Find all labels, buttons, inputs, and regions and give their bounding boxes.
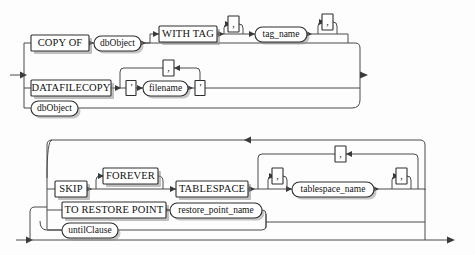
- until-clause-label: untilClause: [68, 225, 111, 235]
- to-restore-point-label: TO RESTORE POINT: [65, 204, 164, 215]
- comma-tag-after-label: ,: [326, 16, 329, 27]
- datafilecopy-label: DATAFILECOPY: [31, 82, 110, 93]
- arrow-filename-loop: [174, 65, 180, 71]
- tag-name-label: tag_name: [263, 29, 300, 39]
- panel-bottom-nodes: SKIP FOREVER TABLESPACE , , tablespace_n…: [55, 146, 407, 241]
- comma-ts-after-right-riser: [407, 176, 411, 189]
- railroad-diagram-svg: COPY OF dbObject WITH TAG , tag_name , D…: [0, 0, 475, 255]
- top-loopback-right-riser: [420, 140, 425, 190]
- copy-of-label: COPY OF: [38, 37, 83, 48]
- link-tagname-out: [307, 34, 348, 43]
- comma-ts-after-label: ,: [400, 170, 403, 181]
- dbobject-2-label: dbObject: [37, 103, 72, 113]
- link-dbobject2-rightbus: [78, 88, 360, 108]
- arrow-into-withtag: [153, 31, 159, 37]
- filename-label: filename: [149, 83, 182, 93]
- arrow-into-tagname: [249, 31, 255, 37]
- comma-filename-loop-label: ,: [167, 62, 170, 73]
- branch-untilclause: [40, 221, 62, 230]
- exit-arrow-top: [360, 72, 368, 79]
- comma-tag-after-right-riser: [333, 22, 337, 34]
- dbobject-1-label: dbObject: [100, 38, 135, 48]
- arrow-into-tablespace: [170, 186, 176, 192]
- railroad-diagram-canvas: COPY OF dbObject WITH TAG , tag_name , D…: [0, 0, 475, 255]
- panel-top-nodes: COPY OF dbObject WITH TAG , tag_name , D…: [31, 14, 333, 119]
- arrow-into-filename: [137, 85, 143, 91]
- comma-ts-before-label: ,: [276, 170, 279, 181]
- forever-label: FOREVER: [106, 170, 155, 181]
- exit-arrow-bottom: [447, 237, 455, 244]
- tablespace-name-label: tablespace_name: [301, 184, 366, 194]
- top-loopback-arrow: [244, 137, 251, 144]
- tablespace-label: TABLESPACE: [179, 183, 245, 194]
- skip-label: SKIP: [59, 183, 82, 194]
- with-tag-label: WITH TAG: [162, 28, 214, 39]
- arrow-tsname-loop: [346, 151, 352, 157]
- left-bus-bottom-curve: [30, 207, 40, 212]
- comma-tag-loop-right-riser: [239, 24, 243, 34]
- comma-ts-outer-loop-label: ,: [339, 148, 342, 159]
- restore-point-name-label: restore_point_name: [178, 205, 253, 215]
- right-bus-top: [348, 43, 360, 75]
- comma-tag-loop-label: ,: [232, 18, 235, 29]
